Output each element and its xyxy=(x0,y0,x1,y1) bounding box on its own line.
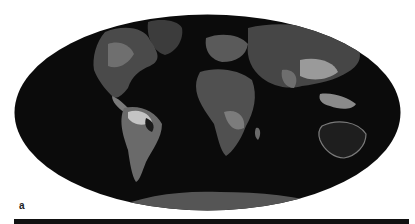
divider-bar xyxy=(14,219,409,224)
map-figure: a xyxy=(0,0,415,224)
world-map xyxy=(0,0,415,224)
panel-label: a xyxy=(19,200,25,211)
